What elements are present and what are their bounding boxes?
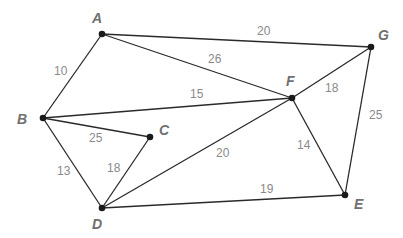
edge-g-e — [345, 47, 371, 195]
node-g — [368, 44, 375, 51]
node-labels: ABCDEFG — [17, 10, 389, 232]
node-c — [147, 134, 154, 141]
node-label-e: E — [354, 196, 364, 212]
edge-weight-b-c: 25 — [89, 131, 103, 145]
edge-a-g — [102, 34, 371, 47]
edge-b-f — [43, 98, 292, 118]
node-label-c: C — [159, 122, 170, 138]
edge-weight-c-d: 18 — [107, 161, 121, 175]
nodes-group — [40, 31, 375, 212]
edge-weight-g-e: 25 — [369, 108, 383, 122]
edge-weight-a-f: 26 — [208, 52, 222, 66]
edge-a-b — [43, 34, 102, 118]
edge-weight-a-b: 10 — [54, 64, 68, 78]
edge-weight-f-e: 14 — [297, 138, 311, 152]
node-f — [289, 95, 296, 102]
node-label-a: A — [91, 10, 102, 26]
edge-weight-b-d: 13 — [57, 164, 71, 178]
node-label-d: D — [92, 216, 102, 232]
node-d — [99, 205, 106, 212]
weighted-graph: 202610152513182019181425 ABCDEFG — [0, 0, 403, 238]
edge-weight-b-f: 15 — [190, 87, 204, 101]
node-label-b: B — [17, 111, 27, 127]
node-b — [40, 115, 47, 122]
edge-weight-d-e: 19 — [260, 182, 274, 196]
node-a — [99, 31, 106, 38]
node-label-f: F — [286, 73, 295, 89]
edge-weight-f-g: 18 — [325, 81, 339, 95]
edge-weight-labels: 202610152513182019181425 — [54, 24, 383, 196]
edges-group — [43, 34, 371, 208]
node-e — [342, 192, 349, 199]
edge-d-e — [102, 195, 345, 208]
edge-weight-a-g: 20 — [257, 24, 271, 38]
edge-weight-d-f: 20 — [216, 146, 230, 160]
node-label-g: G — [378, 27, 389, 43]
